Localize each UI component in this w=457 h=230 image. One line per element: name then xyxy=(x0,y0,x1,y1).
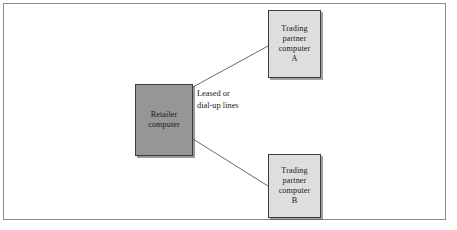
node-retailer-line-2: computer xyxy=(148,120,180,130)
edge-label-leased-or-dialup-lines: Leased or dial-up lines xyxy=(197,88,239,112)
node-retailer-computer: Retailer computer xyxy=(135,84,193,156)
node-partner-b-line-1: Trading xyxy=(281,166,307,176)
edge-label-line-2: dial-up lines xyxy=(197,100,239,112)
edge-retailer-to-partner-a xyxy=(193,46,268,87)
node-partner-b-line-4: B xyxy=(292,196,298,206)
figure-canvas: Retailer computer Trading partner comput… xyxy=(0,0,457,230)
node-partner-a-line-3: computer xyxy=(279,44,311,54)
edge-retailer-to-partner-b xyxy=(193,139,268,186)
node-trading-partner-computer-b: Trading partner computer B xyxy=(268,154,321,218)
node-partner-b-line-3: computer xyxy=(279,186,311,196)
node-retailer-line-1: Retailer xyxy=(151,110,178,120)
node-partner-a-line-2: partner xyxy=(283,34,307,44)
connector-lines-layer xyxy=(0,0,457,230)
node-partner-a-line-4: A xyxy=(291,54,297,64)
node-partner-a-line-1: Trading xyxy=(281,24,307,34)
node-partner-b-line-2: partner xyxy=(283,176,307,186)
edge-label-line-1: Leased or xyxy=(197,88,239,100)
node-trading-partner-computer-a: Trading partner computer A xyxy=(268,10,321,78)
